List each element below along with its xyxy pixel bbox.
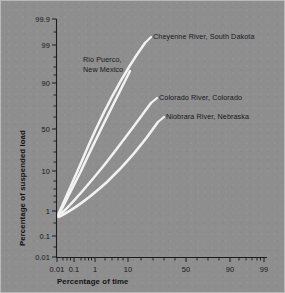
x-axis-title: Percentage of time <box>57 277 129 286</box>
x-tick-label-0.1: 0.1 <box>64 265 84 274</box>
x-tick-label-50: 50 <box>177 265 195 274</box>
x-tick-label-1: 1 <box>87 265 103 274</box>
y-tick-label-0.01: 0.01 <box>19 253 50 262</box>
x-tick-label-10: 10 <box>119 265 137 274</box>
x-tick-label-99: 99 <box>255 265 273 274</box>
leader-niobrara <box>158 117 164 122</box>
annotation-rio-puerco: Rio Puerco, New Mexico <box>83 55 123 74</box>
leader-colorado <box>151 98 157 103</box>
annotation-rio-puerco-line1: Rio Puerco, <box>83 55 122 64</box>
chart-figure: 99.9 99 90 50 10 1 0.1 0.01 0.01 0.1 1 1… <box>0 0 285 293</box>
y-axis-major-ticks <box>52 19 57 257</box>
y-tick-label-90: 90 <box>21 79 50 88</box>
x-tick-label-90: 90 <box>221 265 239 274</box>
annotation-rio-puerco-line2: New Mexico <box>83 65 123 74</box>
y-tick-label-99.9: 99.9 <box>21 15 50 24</box>
leader-cheyenne <box>145 37 151 43</box>
y-tick-label-99: 99 <box>21 41 50 50</box>
annotation-colorado: Colorado River, Colorado <box>159 93 242 103</box>
annotation-niobrara: Niobrara River, Nebraska <box>166 112 249 122</box>
annotation-cheyenne: Cheyenne River, South Dakota <box>153 32 255 42</box>
y-axis-title: Percentage of suspended load <box>18 130 27 246</box>
